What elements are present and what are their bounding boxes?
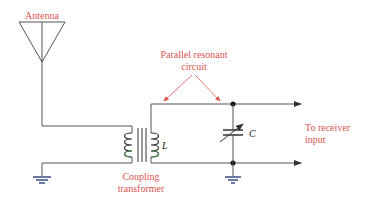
antenna-wire — [42, 104, 132, 133]
inductor-label: L — [161, 140, 168, 151]
coupling-transformer-label-line1: Coupling — [122, 171, 159, 182]
secondary-bottom-wire — [151, 157, 233, 163]
circuit-diagram: Antenna L C — [0, 0, 367, 199]
antenna-label: Antenna — [25, 10, 59, 21]
receiver-input-label-line1: To receiver — [305, 122, 351, 133]
receiver-input-label-line2: input — [305, 134, 326, 145]
coupling-transformer-label-line2: transformer — [118, 183, 165, 194]
transformer-core-icon — [138, 128, 146, 162]
ground-icon — [225, 177, 241, 183]
pointer-arrow-right — [195, 75, 220, 101]
capacitor-label: C — [249, 128, 256, 139]
parallel-resonant-label-line1: Parallel resonant — [161, 49, 228, 60]
secondary-top-wire — [151, 104, 233, 133]
pointer-arrow-left — [164, 75, 192, 101]
ground-icon — [33, 177, 51, 183]
parallel-resonant-label-line2: circuit — [181, 61, 207, 72]
antenna-icon — [19, 22, 65, 104]
inductor-L-icon — [151, 133, 159, 157]
primary-coil-icon — [125, 133, 133, 157]
primary-ground-wire — [42, 157, 132, 176]
variable-capacitor-icon — [220, 104, 243, 176]
